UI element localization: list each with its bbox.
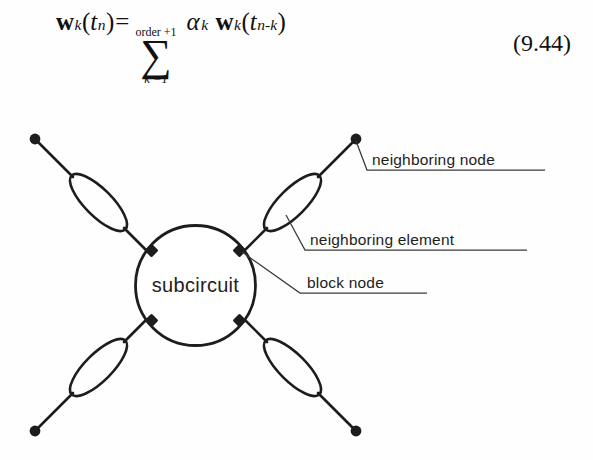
branch-bottom-right	[243, 318, 361, 436]
equation-rhs-arg-subscript: n-k	[257, 16, 278, 34]
branch-bottom-left	[30, 318, 148, 436]
equation-lhs-arg-subscript: n	[97, 16, 106, 34]
equation-equals-sign: =	[114, 8, 131, 36]
summation-lower-limit: k =1	[144, 73, 167, 86]
callout-neighboring-node: neighboring node	[356, 141, 545, 170]
sigma-icon: ∑	[140, 36, 171, 76]
equation-rhs-open-paren: (	[241, 8, 249, 36]
wire-top-right-outer	[318, 140, 355, 177]
equation-lhs-close-paren: )	[106, 8, 114, 36]
subcircuit-label: subcircuit	[152, 274, 240, 296]
callout-neighboring-element: neighboring element	[286, 215, 527, 250]
wire-bottom-right-outer	[318, 393, 355, 430]
neighbor-node-top-left	[30, 134, 41, 145]
equation-lhs-subscript: k	[74, 16, 82, 34]
equation-number: (9.44)	[513, 30, 571, 57]
wire-bottom-left-outer	[36, 393, 73, 430]
page-root: wk(tn)= order +1 ∑ k =1 αkwk(tn-k) (9.44…	[0, 0, 593, 460]
wire-bottom-left-inner	[124, 318, 148, 342]
subcircuit-diagram: subcircuit neighboring node neighboring …	[0, 110, 593, 460]
equation-rhs-close-paren: )	[278, 8, 286, 36]
branch-top-left	[30, 134, 148, 252]
equation-lhs-arg: t	[90, 8, 97, 36]
neighbor-node-top-right	[351, 134, 362, 145]
neighbor-node-bottom-right	[351, 426, 362, 437]
equation-rhs-subscript: k	[234, 16, 242, 34]
wire-top-left-inner	[124, 228, 148, 252]
wire-top-right-inner	[243, 228, 267, 252]
label-neighboring-element: neighboring element	[310, 231, 455, 248]
equation-rhs-vector: w	[216, 8, 234, 36]
wire-bottom-right-inner	[243, 318, 267, 342]
equation-coefficient: α	[187, 8, 201, 36]
wire-top-left-outer	[36, 140, 73, 177]
neighbor-node-bottom-left	[30, 426, 41, 437]
equation-rhs-arg: t	[250, 8, 257, 36]
equation-lhs-open-paren: (	[82, 8, 90, 36]
label-neighboring-node: neighboring node	[372, 151, 495, 168]
callout-block-node: block node	[242, 252, 427, 293]
equation-lhs-vector: w	[56, 8, 74, 36]
equation-coefficient-subscript: k	[201, 16, 209, 34]
equation-block: wk(tn)= order +1 ∑ k =1 αkwk(tn-k) (9.44…	[0, 0, 593, 110]
equation-expression: wk(tn)= order +1 ∑ k =1 αkwk(tn-k)	[56, 8, 286, 80]
summation-operator: order +1 ∑ k =1	[135, 26, 176, 86]
label-block-node: block node	[307, 274, 384, 291]
diagram-canvas: subcircuit neighboring node neighboring …	[0, 110, 593, 460]
